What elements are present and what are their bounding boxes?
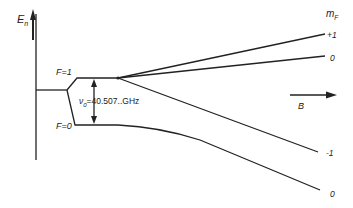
mf-plus1-line xyxy=(118,34,325,78)
mf-header: mF xyxy=(326,8,339,21)
mf-minus1-line xyxy=(118,78,318,152)
branch-point xyxy=(116,76,119,79)
mf-value-0-lower: 0 xyxy=(330,189,335,199)
mf-0-upper-line xyxy=(118,56,325,78)
mf-0-lower-line xyxy=(118,125,320,190)
arrow-down-icon xyxy=(91,116,97,124)
mf-value-minus1: -1 xyxy=(326,148,334,158)
energy-label: En xyxy=(17,13,28,27)
mf-value-plus1: +1 xyxy=(327,30,337,40)
field-arrowhead-icon xyxy=(326,92,337,99)
arrow-up-icon xyxy=(91,79,97,87)
energy-arrowhead-icon xyxy=(30,9,36,20)
f0-label: F=0 xyxy=(56,121,72,131)
splitting-label: ν0=40.507..GHz xyxy=(79,96,139,108)
hyperfine-diagram: En F=1 F=0 ν0=40.507..GHz B mF +1 0 -1 0 xyxy=(0,0,353,208)
field-label: B xyxy=(298,101,304,111)
f1-label: F=1 xyxy=(56,67,72,77)
mf-value-0-upper: 0 xyxy=(330,53,335,63)
